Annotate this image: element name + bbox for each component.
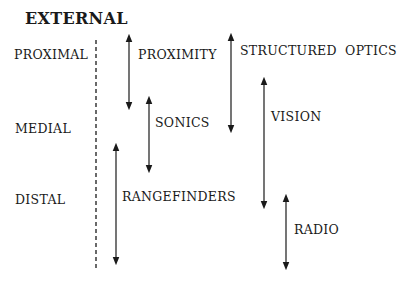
diagram-title: EXTERNAL <box>25 9 128 28</box>
sensor-label-radio: RADIO <box>294 222 339 237</box>
sensor-label-sonics: SONICS <box>155 115 210 130</box>
zone-label-proximal: PROXIMAL <box>14 47 88 62</box>
sensor-label-rangefinders: RANGEFINDERS <box>122 189 236 204</box>
zone-label-medial: MEDIAL <box>15 121 71 136</box>
sensor-label-structured-optics: STRUCTURED OPTICS <box>240 43 397 58</box>
sensor-label-vision: VISION <box>271 109 321 124</box>
sensor-label-proximity: PROXIMITY <box>138 47 217 62</box>
zone-label-distal: DISTAL <box>15 192 65 207</box>
